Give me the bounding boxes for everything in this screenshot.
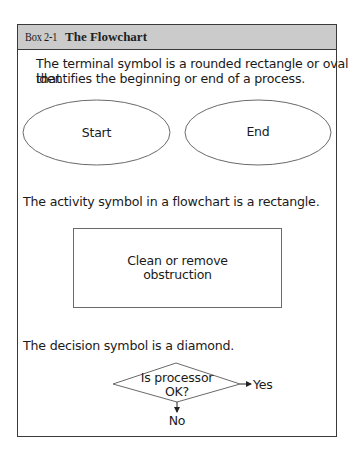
start-label: Start xyxy=(23,125,170,140)
decision-description: The decision symbol is a diamond. xyxy=(23,338,234,353)
decision-label-line2: OK? xyxy=(127,384,227,399)
terminal-description-line2: identifies the beginning or end of a pro… xyxy=(36,71,305,86)
decision-label-line1: Is processor xyxy=(127,370,227,385)
activity-description: The activity symbol in a flowchart is a … xyxy=(23,194,319,209)
activity-label-line2: obstruction xyxy=(73,267,282,282)
no-label: No xyxy=(165,413,189,428)
yes-label: Yes xyxy=(253,377,273,392)
activity-label-line1: Clean or remove xyxy=(73,253,282,268)
end-label: End xyxy=(185,124,331,139)
